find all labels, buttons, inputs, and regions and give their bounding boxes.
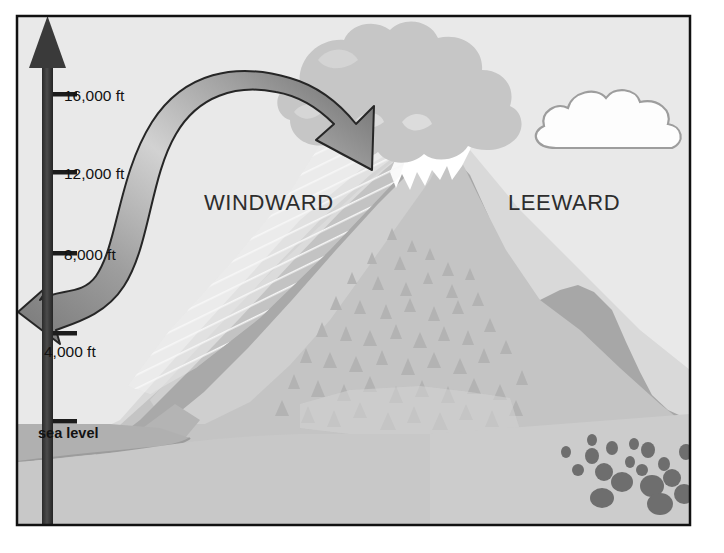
diagram-canvas: WINDWARD LEEWARD 16,000 ft 12,000 ft 8,0… xyxy=(0,0,724,553)
axis-shaft xyxy=(42,58,53,528)
axis-label-8000: 8,000 ft xyxy=(64,246,116,263)
axis-label-4000: 4,000 ft xyxy=(44,343,96,360)
axis-label-12000: 12,000 ft xyxy=(64,165,125,182)
axis-label-16000: 16,000 ft xyxy=(64,87,125,104)
axis-tick-sea-level xyxy=(53,419,77,424)
orographic-rain-shadow-diagram: WINDWARD LEEWARD 16,000 ft 12,000 ft 8,0… xyxy=(0,0,724,553)
axis-label-sea-level: sea level xyxy=(38,425,98,441)
windward-label: WINDWARD xyxy=(204,190,334,215)
leeward-label: LEEWARD xyxy=(508,190,620,215)
axis-tick-4000 xyxy=(53,331,77,336)
